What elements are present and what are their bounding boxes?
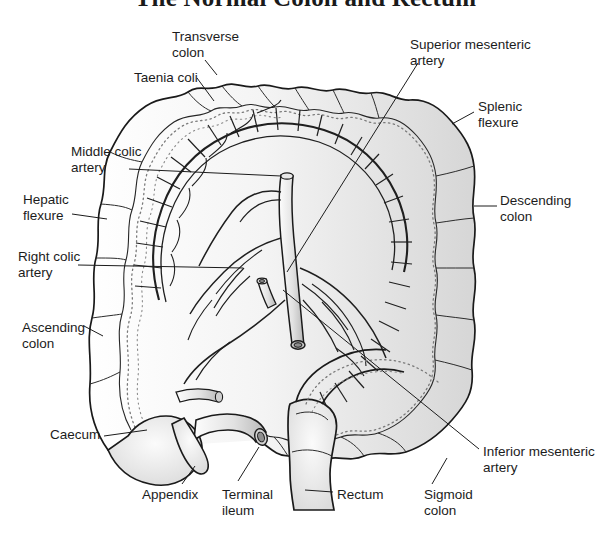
label-inferior-mesenteric-artery: Inferior mesenteric artery xyxy=(483,444,595,475)
label-hepatic-flexure: Hepatic flexure xyxy=(23,192,69,223)
label-superior-mesenteric-artery: Superior mesenteric artery xyxy=(410,37,531,68)
colon-outer-wall xyxy=(89,84,475,461)
label-caecum: Caecum xyxy=(50,427,100,443)
label-splenic-flexure: Splenic flexure xyxy=(478,99,522,130)
label-terminal-ileum: Terminal ileum xyxy=(222,487,273,518)
label-descending-colon: Descending colon xyxy=(500,193,571,224)
leader-transverse-colon xyxy=(205,60,217,75)
leader-sigmoid-colon xyxy=(432,458,447,484)
label-right-colic-artery: Right colic artery xyxy=(18,249,80,280)
figure-container: The Normal Colon and Rectum xyxy=(0,0,611,534)
label-rectum: Rectum xyxy=(337,487,384,503)
label-appendix: Appendix xyxy=(142,487,198,503)
label-middle-colic-artery: Middle colic artery xyxy=(71,144,142,175)
label-transverse-colon: Transverse colon xyxy=(172,29,239,60)
label-sigmoid-colon: Sigmoid colon xyxy=(424,487,473,518)
leader-terminal-ileum xyxy=(238,447,259,481)
leader-splenic-flexure xyxy=(452,112,474,124)
label-ascending-colon: Ascending colon xyxy=(22,320,85,351)
label-taenia-coli: Taenia coli xyxy=(134,70,198,86)
